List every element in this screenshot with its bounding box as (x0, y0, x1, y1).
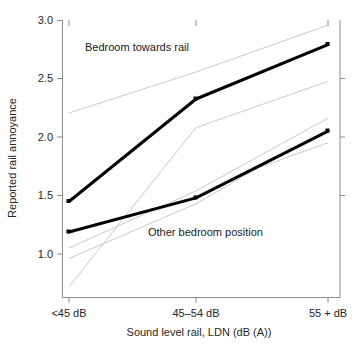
x-axis-ticks (69, 20, 345, 303)
annotation-other-bedroom-position: Other bedroom position (148, 226, 263, 238)
chart-svg: 3.0 2.5 2.0 1.5 1.0 <45 dB 45–54 dB 55 +… (0, 0, 357, 348)
x-tick-label-1: 45–54 dB (172, 307, 219, 319)
series-line-bedroom-towards-rail (69, 45, 328, 202)
data-points-bedroom-towards-rail (67, 42, 330, 203)
y-axis-title: Reported rail annoyance (6, 98, 18, 218)
y-tick-label-2-5: 2.5 (38, 72, 53, 84)
x-axis-title: Sound level rail, LDN (dB (A)) (127, 326, 272, 338)
x-tick-label-2: 55 + dB (309, 307, 347, 319)
chart-figure: 3.0 2.5 2.0 1.5 1.0 <45 dB 45–54 dB 55 +… (0, 0, 357, 348)
y-tick-label-2-0: 2.0 (38, 131, 53, 143)
data-points-other-bedroom-position (67, 129, 330, 234)
y-tick-label-1-0: 1.0 (38, 248, 53, 260)
y-tick-label-3-0: 3.0 (38, 14, 53, 26)
confidence-band-bedroom-towards-rail (69, 25, 328, 287)
series-line-other-bedroom-position (69, 131, 328, 232)
y-tick-label-1-5: 1.5 (38, 189, 53, 201)
x-tick-label-0: <45 dB (51, 307, 86, 319)
y-axis-ticks: 3.0 2.5 2.0 1.5 1.0 (38, 14, 63, 260)
annotation-bedroom-towards-rail: Bedroom towards rail (85, 41, 189, 53)
